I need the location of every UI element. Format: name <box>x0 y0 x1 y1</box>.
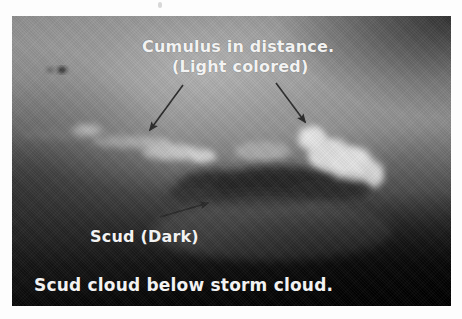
cumulus-label-line1: Cumulus in distance. <box>142 37 334 56</box>
cumulus-label-line2: (Light colored) <box>172 57 309 76</box>
scud-label: Scud (Dark) <box>90 227 199 246</box>
photo-caption: Scud cloud below storm cloud. <box>34 275 333 295</box>
page: Cumulus in distance. (Light colored) Scu… <box>0 0 462 319</box>
stray-mark <box>158 2 162 8</box>
storm-cloud-photo: Cumulus in distance. (Light colored) Scu… <box>12 16 451 306</box>
